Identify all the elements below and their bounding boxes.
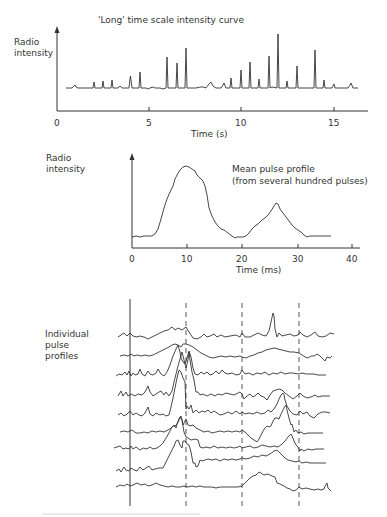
- top-tick-label-10: 10: [235, 118, 247, 128]
- mid-ylabel-line1: Radio: [46, 153, 72, 163]
- top-chart-title: 'Long' time scale intensity curve: [98, 15, 244, 25]
- long-time-scale-chart: 'Long' time scale intensity curve Radio …: [14, 15, 368, 139]
- pulse-trace-2: [120, 344, 332, 361]
- mid-tick-label-40: 40: [346, 254, 358, 264]
- pulse-trace-1: [118, 313, 334, 339]
- mid-tick-label-30: 30: [292, 254, 304, 264]
- mid-tick-label-10: 10: [181, 254, 193, 264]
- mid-ylabel-line2: intensity: [46, 164, 86, 174]
- long-time-scale-trace: [66, 34, 358, 89]
- top-tick-label-0: 0: [54, 118, 60, 128]
- mid-annotation-line1: Mean pulse profile: [232, 164, 315, 174]
- bottom-label-line1: Individual: [45, 329, 89, 339]
- mid-tick-label-20: 20: [236, 254, 248, 264]
- mid-xlabel: Time (ms): [235, 265, 281, 275]
- pulsar-figure: 'Long' time scale intensity curve Radio …: [0, 0, 387, 517]
- top-ylabel-line1: Radio: [14, 37, 40, 47]
- pulse-trace-4: [118, 352, 330, 400]
- top-ylabel-line2: intensity: [14, 48, 54, 58]
- mid-annotation-line2: (from several hundred pulses): [232, 176, 368, 186]
- mean-pulse-profile-chart: Radio intensity Mean pulse profile (from…: [46, 153, 368, 275]
- individual-pulse-profiles-chart: Individual pulse profiles: [45, 299, 334, 506]
- top-tick-label-15: 15: [328, 118, 339, 128]
- top-y-arrow-icon: [55, 26, 60, 33]
- pulse-trace-7: [114, 417, 324, 451]
- pulse-trace-3: [116, 345, 326, 376]
- mid-tick-label-0: 0: [129, 254, 135, 264]
- top-tick-label-5: 5: [146, 118, 152, 128]
- mid-y-arrow-icon: [130, 153, 135, 160]
- top-xlabel: Time (s): [190, 129, 228, 139]
- bottom-label-line3: profiles: [45, 351, 78, 361]
- bottom-label-line2: pulse: [45, 340, 70, 350]
- pulse-trace-8: [116, 440, 326, 472]
